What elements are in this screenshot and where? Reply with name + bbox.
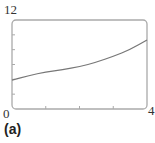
line-chart (0, 0, 155, 143)
plot-frame (12, 20, 147, 109)
data-curve (12, 40, 147, 80)
